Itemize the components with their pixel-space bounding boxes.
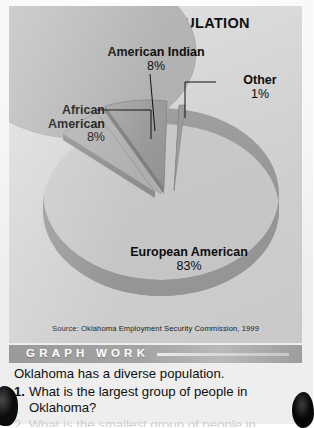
question-cut-off-line: 2. What is the smallest group of people … xyxy=(14,417,284,427)
pie-label-other-percent: 1% xyxy=(221,88,299,102)
question-number-1: 1. xyxy=(14,384,25,417)
question-item-1: 1. What is the largest group of people i… xyxy=(14,384,294,417)
pie-label-european-american: European American 83% xyxy=(109,246,269,273)
question-intro: Oklahoma has a diverse population. xyxy=(14,366,294,383)
band-rule xyxy=(157,353,289,356)
graph-work-label: GRAPH WORK xyxy=(26,347,149,359)
pie-label-american-indian-name: American Indian xyxy=(81,46,231,60)
pie-label-european-american-name: European American xyxy=(109,246,269,260)
pie-label-african-american-line2: American xyxy=(13,118,105,132)
graph-work-band: GRAPH WORK xyxy=(9,345,302,363)
pie-label-european-american-percent: 83% xyxy=(109,260,269,274)
pie-chart: American Indian 8% Other 1% African Amer… xyxy=(9,6,302,343)
pie-label-other-name: Other xyxy=(221,74,299,88)
question-text-1: What is the largest group of people in O… xyxy=(29,384,294,417)
pie-label-american-indian: American Indian 8% xyxy=(81,46,231,73)
scan-artifact-thumb-right xyxy=(292,392,314,428)
chart-source-note: Source: Oklahoma Employment Security Com… xyxy=(9,324,302,333)
chart-panel: OKLAHOMA POPULATION xyxy=(9,6,302,343)
pie-label-african-american-line1: African xyxy=(13,104,105,118)
pie-label-african-american-percent: 8% xyxy=(13,131,105,145)
pie-label-african-american: African American 8% xyxy=(13,104,105,145)
pie-label-other: Other 1% xyxy=(221,74,299,101)
question-block: Oklahoma has a diverse population. 1. Wh… xyxy=(14,366,294,417)
pie-label-american-indian-percent: 8% xyxy=(81,60,231,74)
